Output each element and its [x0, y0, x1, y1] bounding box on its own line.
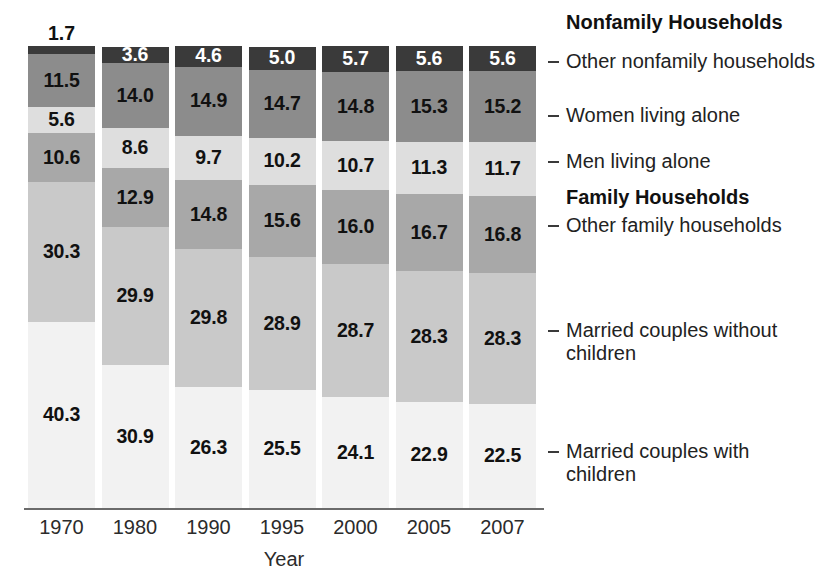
x-axis-tick: 2005 [396, 515, 463, 540]
bar-segment-value: 28.7 [337, 321, 374, 341]
bar-segment[interactable]: 25.5 [249, 390, 316, 508]
bar-stack: 22.528.316.811.715.25.6 [469, 46, 536, 508]
plot-area: 40.330.310.65.611.51.730.929.912.98.614.… [28, 46, 540, 508]
bar-column: 22.528.316.811.715.25.6 [469, 46, 536, 508]
bar-segment[interactable]: 10.2 [249, 138, 316, 185]
bar-segment-value: 28.3 [410, 327, 447, 347]
bar-segment[interactable]: 15.3 [396, 71, 463, 142]
bar-segment-value: 14.8 [337, 97, 374, 117]
bar-segment-value: 5.6 [416, 49, 443, 69]
legend-entry-other-nonfamily-households[interactable]: Other nonfamily households [548, 50, 815, 73]
bar-segment[interactable]: 11.5 [28, 54, 95, 107]
legend-entry-other-family-households[interactable]: Other family households [548, 214, 782, 237]
legend-dash-icon [548, 115, 559, 117]
bar-stack: 22.928.316.711.315.35.6 [396, 46, 463, 508]
bar-segment-value: 30.9 [116, 427, 153, 447]
bar-segment[interactable]: 10.7 [322, 141, 389, 190]
bar-segment-value: 10.7 [337, 156, 374, 176]
bar-segment-value: 8.6 [122, 138, 149, 158]
bar-segment[interactable]: 9.7 [175, 136, 242, 181]
x-axis-tick: 1970 [28, 515, 95, 540]
bar-segment-value: 11.5 [43, 71, 79, 91]
bar-segment[interactable]: 28.9 [249, 257, 316, 391]
bar-segment[interactable]: 5.7 [322, 46, 389, 72]
bar-segment[interactable]: 29.9 [102, 227, 169, 365]
bar-segment-value: 3.6 [122, 45, 149, 65]
legend-entry-men-living-alone[interactable]: Men living alone [548, 150, 711, 173]
bar-segment[interactable]: 24.1 [322, 397, 389, 508]
legend-entry-married-couples-with-children[interactable]: Married couples with children [548, 440, 818, 487]
bar-segment-value: 40.3 [43, 405, 80, 425]
bar-segment-value: 10.2 [263, 151, 300, 171]
bar-segment[interactable]: 14.8 [322, 72, 389, 140]
bar-column: 30.929.912.98.614.03.6 [102, 46, 169, 508]
bar-segment[interactable]: 12.9 [102, 168, 169, 228]
x-axis-tick: 2000 [322, 515, 389, 540]
bar-segment-value: 14.7 [263, 94, 300, 114]
bar-segment[interactable]: 22.9 [396, 402, 463, 508]
legend-label: Married couples without children [566, 319, 818, 366]
bar-segment[interactable]: 15.2 [469, 71, 536, 141]
bar-segment-value: 25.5 [263, 439, 300, 459]
bar-segment[interactable]: 26.3 [175, 387, 242, 509]
bar-stack: 40.330.310.65.611.51.7 [28, 46, 95, 508]
bar-segment-value: 5.6 [489, 49, 516, 69]
bar-segment[interactable]: 11.7 [469, 142, 536, 196]
bar-segment-value: 14.8 [190, 205, 227, 225]
bar-segment[interactable]: 5.6 [469, 46, 536, 72]
bar-segment[interactable]: 4.6 [175, 46, 242, 67]
x-axis-tick: 1980 [102, 515, 169, 540]
legend: Nonfamily Households Other nonfamily hou… [548, 0, 825, 584]
legend-dash-icon [548, 225, 559, 227]
legend-group-family-households: Family Households [566, 186, 749, 208]
bar-segment[interactable]: 30.9 [102, 365, 169, 508]
bar-segment-value: 16.0 [337, 217, 374, 237]
legend-dash-icon [548, 451, 559, 453]
bar-segment[interactable]: 28.3 [469, 273, 536, 404]
bar-segment[interactable]: 5.0 [249, 47, 316, 70]
bar-segment[interactable]: 8.6 [102, 128, 169, 168]
bar-segment[interactable]: 16.8 [469, 196, 536, 274]
bar-segment-value: 5.0 [269, 48, 296, 68]
bar-segment-value: 5.7 [342, 49, 369, 69]
bar-segment-value: 14.0 [116, 86, 153, 106]
bar-segment[interactable]: 10.6 [28, 133, 95, 182]
bar-segment[interactable]: 30.3 [28, 182, 95, 322]
bar-segment[interactable]: 16.7 [396, 194, 463, 271]
bar-segment[interactable]: 11.3 [396, 142, 463, 194]
bar-segment[interactable]: 3.6 [102, 47, 169, 64]
bar-segment-value-outside: 1.7 [48, 24, 75, 44]
bar-segment-value: 28.3 [484, 329, 521, 349]
bar-segment[interactable]: 16.0 [322, 190, 389, 264]
bar-segment[interactable]: 14.0 [102, 63, 169, 128]
bar-segment-value: 28.9 [263, 314, 300, 334]
bar-segment[interactable]: 22.5 [469, 404, 536, 508]
legend-entry-married-couples-without-children[interactable]: Married couples without children [548, 319, 818, 366]
bar-segment-value: 5.6 [48, 110, 75, 130]
bar-stack: 26.329.814.89.714.94.6 [175, 46, 242, 508]
bar-segment[interactable]: 15.6 [249, 185, 316, 257]
legend-entry-women-living-alone[interactable]: Women living alone [548, 104, 740, 127]
bar-segment[interactable]: 28.7 [322, 264, 389, 397]
bar-segment[interactable]: 28.3 [396, 271, 463, 402]
bar-segment[interactable]: 5.6 [396, 46, 463, 72]
bar-column: 22.928.316.711.315.35.6 [396, 46, 463, 508]
bar-segment[interactable]: 5.6 [28, 107, 95, 133]
bar-segment-value: 10.6 [43, 148, 80, 168]
bar-column: 40.330.310.65.611.51.7 [28, 46, 95, 508]
bar-segment[interactable]: 29.8 [175, 249, 242, 387]
bar-segment-value: 22.5 [484, 446, 521, 466]
bar-segment-value: 16.8 [484, 225, 521, 245]
bar-column: 24.128.716.010.714.85.7 [322, 46, 389, 508]
bar-stack: 24.128.716.010.714.85.7 [322, 46, 389, 508]
legend-group-nonfamily-households: Nonfamily Households [566, 11, 783, 33]
x-axis-line [24, 508, 544, 510]
bar-segment[interactable]: 14.7 [249, 70, 316, 138]
legend-dash-icon [548, 161, 559, 163]
bar-segment[interactable]: 14.9 [175, 67, 242, 136]
bar-column: 25.528.915.610.214.75.0 [249, 46, 316, 508]
legend-label: Other family households [566, 214, 782, 237]
bar-segment[interactable]: 14.8 [175, 180, 242, 248]
bar-segment[interactable]: 40.3 [28, 322, 95, 508]
bar-segment[interactable]: 1.7 [28, 46, 95, 54]
